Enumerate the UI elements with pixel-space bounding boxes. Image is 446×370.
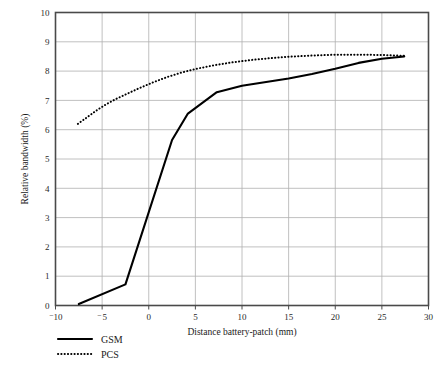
x-tick-label: 15 xyxy=(284,312,294,322)
x-axis-title: Distance battery-patch (mm) xyxy=(187,327,296,338)
y-tick-label: 3 xyxy=(45,213,50,223)
x-tick-label: ⁻10 xyxy=(49,312,64,322)
y-tick-label: 9 xyxy=(45,37,50,47)
x-tick-label: 20 xyxy=(331,312,341,322)
x-tick-label: 0 xyxy=(147,312,152,322)
legend-label-pcs[interactable]: PCS xyxy=(101,349,119,360)
y-tick-label: 5 xyxy=(45,154,50,164)
x-tick-label: 25 xyxy=(377,312,387,322)
y-tick-label: 7 xyxy=(45,96,50,106)
figure-container: ⁻10⁻5051015202530012345678910 Distance b… xyxy=(0,0,446,370)
y-tick-label: 0 xyxy=(45,301,50,311)
y-tick-label: 8 xyxy=(45,66,50,76)
y-tick-label: 6 xyxy=(45,125,50,135)
chart-svg: ⁻10⁻5051015202530012345678910 Distance b… xyxy=(0,0,446,370)
x-tick-label: 10 xyxy=(238,312,248,322)
x-tick-label: ⁻5 xyxy=(97,312,107,322)
x-tick-label: 30 xyxy=(424,312,434,322)
x-tick-label: 5 xyxy=(193,312,198,322)
y-tick-label: 10 xyxy=(41,8,51,18)
y-tick-label: 1 xyxy=(45,271,50,281)
legend-label-gsm[interactable]: GSM xyxy=(101,334,123,345)
y-tick-label: 4 xyxy=(45,184,50,194)
y-tick-label: 2 xyxy=(45,242,50,252)
y-axis-title: Relative bandwidth (%) xyxy=(20,114,31,205)
